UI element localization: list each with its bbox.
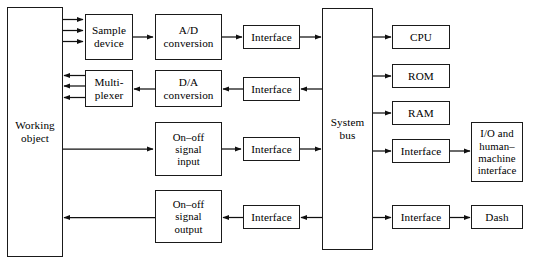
block-interface-ad: Interface xyxy=(243,25,300,49)
block-dash: Dash xyxy=(471,205,523,229)
block-on-off-signal-input: On–offsignalinput xyxy=(155,122,222,176)
block-ad-conversion: A/Dconversion xyxy=(155,14,222,60)
block-cpu: CPU xyxy=(392,25,450,49)
block-multiplexer-label: Multi-plexer xyxy=(88,76,130,102)
block-multiplexer: Multi-plexer xyxy=(85,70,133,107)
block-interface-dash-label: Interface xyxy=(395,211,447,224)
block-system-bus: Systembus xyxy=(322,8,373,250)
block-rom-label: ROM xyxy=(395,70,447,83)
block-system-bus-label: Systembus xyxy=(325,116,370,142)
block-interface-onoff-input-label: Interface xyxy=(246,143,297,156)
block-interface-io: Interface xyxy=(392,139,450,163)
block-ram: RAM xyxy=(392,101,450,125)
block-ad-conversion-label: A/Dconversion xyxy=(158,24,219,50)
block-io-human-machine-interface-label: I/O andhuman–machineinterface xyxy=(474,127,520,176)
block-working-object-label: Workingobject xyxy=(10,119,60,145)
block-interface-onoff-output-label: Interface xyxy=(246,211,297,224)
block-cpu-label: CPU xyxy=(395,31,447,44)
block-ram-label: RAM xyxy=(395,107,447,120)
block-interface-da-label: Interface xyxy=(246,83,297,96)
block-interface-ad-label: Interface xyxy=(246,31,297,44)
block-interface-dash: Interface xyxy=(392,205,450,229)
block-interface-io-label: Interface xyxy=(395,145,447,158)
block-io-human-machine-interface: I/O andhuman–machineinterface xyxy=(471,122,523,182)
block-interface-da: Interface xyxy=(243,77,300,101)
block-sample-device: Sampledevice xyxy=(85,14,133,60)
block-sample-device-label: Sampledevice xyxy=(88,24,130,50)
block-rom: ROM xyxy=(392,64,450,88)
block-diagram-canvas: Workingobject Sampledevice Multi-plexer … xyxy=(0,0,533,265)
block-dash-label: Dash xyxy=(474,211,520,224)
block-on-off-signal-output: On–offsignaloutput xyxy=(155,190,222,243)
block-interface-onoff-input: Interface xyxy=(243,137,300,161)
block-da-conversion: D/Aconversion xyxy=(155,70,222,107)
block-on-off-signal-input-label: On–offsignalinput xyxy=(158,131,219,168)
block-on-off-signal-output-label: On–offsignaloutput xyxy=(158,198,219,235)
block-interface-onoff-output: Interface xyxy=(243,205,300,229)
block-da-conversion-label: D/Aconversion xyxy=(158,76,219,102)
block-working-object: Workingobject xyxy=(7,7,63,257)
